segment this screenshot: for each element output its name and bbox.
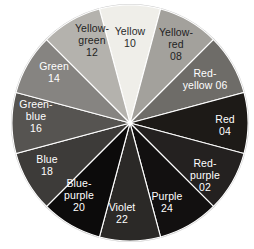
color-wheel-figure: Yellow10Yellow-red08Red-yellow 06Red04Re… [0,0,254,249]
color-wheel-svg: Yellow10Yellow-red08Red-yellow 06Red04Re… [0,0,254,249]
